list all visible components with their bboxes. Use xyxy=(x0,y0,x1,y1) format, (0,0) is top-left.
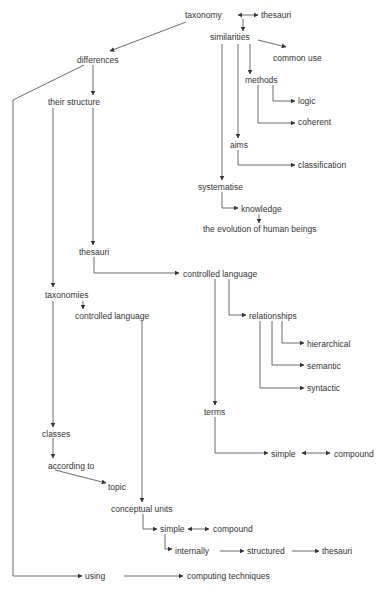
node-according-to: according to xyxy=(48,461,94,471)
node-common-use: common use xyxy=(273,53,322,63)
node-hierarchical: hierarchical xyxy=(307,339,350,349)
concept-map: taxonomy thesauri similarities common us… xyxy=(0,0,384,593)
node-systematise: systematise xyxy=(198,182,243,192)
arrow-aims-classification xyxy=(238,150,295,165)
arrow-systematise-knowledge xyxy=(222,192,238,208)
node-thesauri-bottom: thesauri xyxy=(322,546,352,556)
arrow-terms-simple xyxy=(215,417,268,453)
arrow-controlled-language-relationships xyxy=(229,279,246,315)
arrow-taxonomy-differences xyxy=(110,22,186,51)
arrow-differences-using xyxy=(13,65,84,576)
node-simple-terms: simple xyxy=(271,449,296,459)
node-thesauri-mid: thesauri xyxy=(79,247,109,257)
node-logic: logic xyxy=(298,96,315,106)
node-controlled-language-2: controlled language xyxy=(75,311,149,321)
node-taxonomies: taxonomies xyxy=(45,290,88,300)
node-taxonomy: taxonomy xyxy=(185,10,222,20)
arrow-simple-internally xyxy=(165,534,172,549)
node-syntactic: syntactic xyxy=(307,383,340,393)
arrow-methods-logic xyxy=(273,85,295,101)
node-classes: classes xyxy=(42,429,70,439)
node-evolution: the evolution of human beings xyxy=(203,224,316,234)
node-aims: aims xyxy=(230,140,248,150)
node-relationships: relationships xyxy=(249,311,297,321)
node-methods: methods xyxy=(245,75,278,85)
node-compound-cu: compound xyxy=(213,524,253,534)
arrow-according-topic xyxy=(55,470,106,483)
arrow-methods-coherent xyxy=(258,85,295,123)
node-knowledge: knowledge xyxy=(241,204,282,214)
node-internally: internally xyxy=(175,546,209,556)
node-semantic: semantic xyxy=(307,361,341,371)
arrow-thesauri-controlled-language xyxy=(94,257,179,273)
node-thesauri-top: thesauri xyxy=(261,10,291,20)
node-conceptual-units: conceptual units xyxy=(111,504,172,514)
node-differences: differences xyxy=(77,55,118,65)
arrow-relationships-hierarchical xyxy=(282,321,304,343)
node-topic: topic xyxy=(108,482,126,492)
node-structured: structured xyxy=(247,546,285,556)
arrow-conceptual-simple xyxy=(143,514,157,529)
node-classification: classification xyxy=(298,160,346,170)
node-simple-cu: simple xyxy=(160,524,185,534)
node-their-structure: their structure xyxy=(48,97,100,107)
node-computing-techniques: computing techniques xyxy=(187,571,270,581)
node-terms: terms xyxy=(204,407,225,417)
node-similarities: similarities xyxy=(210,32,250,42)
node-compound-terms: compound xyxy=(334,449,374,459)
node-controlled-language-1: controlled language xyxy=(183,269,257,279)
node-using: using xyxy=(85,571,105,581)
node-coherent: coherent xyxy=(298,117,331,127)
arrow-similarities-common-use xyxy=(258,40,286,47)
